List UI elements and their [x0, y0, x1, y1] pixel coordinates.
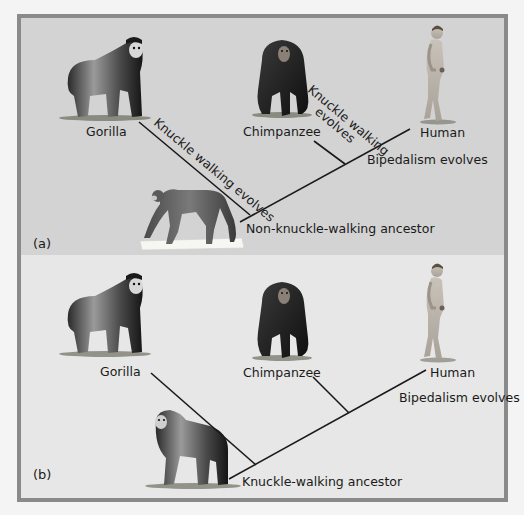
chimpanzee-illustration — [252, 282, 312, 361]
taxon-label-human: Human — [420, 125, 465, 140]
gorilla-illustration — [59, 273, 151, 357]
taxon-label-chimpanzee: Chimpanzee — [243, 124, 321, 139]
human-illustration — [420, 26, 456, 125]
ancestor-label-a: Non-knuckle-walking ancestor — [246, 221, 435, 236]
main-trunk-b — [229, 370, 426, 479]
panel-tag-b: (b) — [33, 467, 51, 482]
annotation-bipedalism-b: Bipedalism evolves — [399, 390, 520, 405]
panel-b-content: Gorilla Chimpanzee Human — [33, 264, 520, 490]
taxon-label-chimpanzee-b: Chimpanzee — [243, 365, 321, 380]
chimp-branch-b — [313, 377, 349, 413]
knuckle-walker-ancestor-illustration — [145, 410, 241, 489]
human-illustration — [420, 264, 456, 363]
panel-a-content: Gorilla Chimpanzee Human — [33, 26, 488, 252]
gorilla-illustration — [59, 37, 151, 121]
ancestor-label-b: Knuckle-walking ancestor — [242, 474, 403, 489]
monkey-ancestor-illustration — [140, 189, 244, 250]
chimp-branch-a — [314, 141, 345, 164]
taxon-label-gorilla-b: Gorilla — [100, 364, 141, 379]
annotation-bipedalism-a: Bipedalism evolves — [367, 152, 488, 167]
taxon-label-human-b: Human — [430, 365, 475, 380]
phylogeny-diagram: Gorilla Chimpanzee Human — [0, 0, 524, 515]
taxon-label-gorilla: Gorilla — [86, 124, 127, 139]
panel-tag-a: (a) — [33, 236, 51, 251]
chimpanzee-illustration — [252, 40, 312, 118]
